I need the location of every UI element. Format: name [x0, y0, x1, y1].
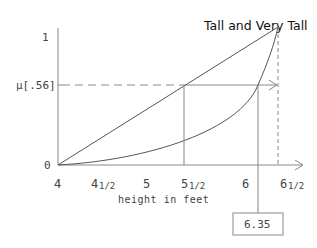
svg-text:6: 6: [242, 177, 249, 191]
svg-text:4: 4: [91, 177, 98, 191]
tall-membership-line: [58, 27, 278, 165]
result-value: 6.35: [244, 218, 271, 231]
y-label-mu: μ[.56]: [16, 79, 56, 92]
svg-text:1/2: 1/2: [189, 181, 205, 191]
svg-text:6: 6: [280, 177, 287, 191]
svg-text:5: 5: [181, 177, 188, 191]
svg-text:5: 5: [143, 177, 150, 191]
y-label-zero: 0: [44, 159, 51, 172]
x-axis-label: height in feet: [118, 194, 209, 205]
x-tick-4: 4: [54, 177, 61, 191]
diagram-title: Tall and Very Tall: [203, 18, 308, 33]
x-tick-6: 6: [242, 177, 249, 191]
y-label-one: 1: [42, 31, 49, 44]
fuzzy-membership-diagram: Tall and Very Tall 1 0 μ[.56] 4 4 1/2 5 …: [0, 0, 317, 248]
svg-text:1/2: 1/2: [288, 181, 304, 191]
x-tick-5-half: 5 1/2: [181, 177, 205, 191]
x-tick-5: 5: [143, 177, 150, 191]
svg-text:1/2: 1/2: [99, 181, 115, 191]
svg-text:4: 4: [54, 177, 61, 191]
x-tick-6-half: 6 1/2: [280, 177, 304, 191]
x-tick-4-half: 4 1/2: [91, 177, 115, 191]
